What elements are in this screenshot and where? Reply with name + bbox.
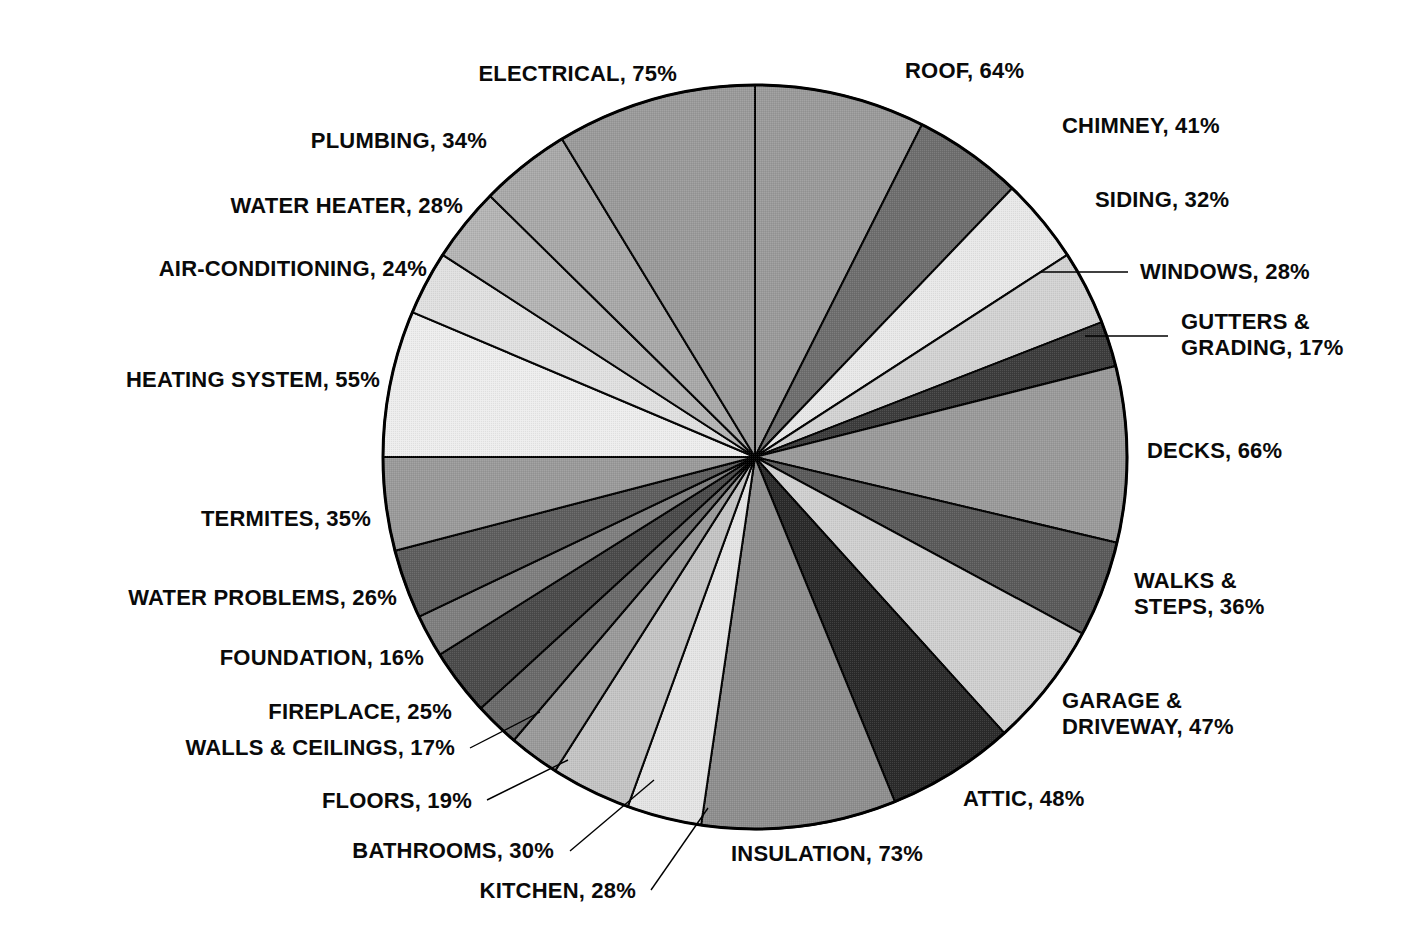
floors-leader [487,760,568,800]
pie-label-kitchen: KITCHEN, 28% [0,878,636,904]
pie-label-electrical: ELECTRICAL, 75% [0,61,677,87]
pie-label-gutters-grading: GUTTERS &GRADING, 17% [1181,309,1344,360]
pie-label-garage-driveway: GARAGE &DRIVEWAY, 47% [1062,688,1234,739]
pie-label-line: INSULATION, 73% [731,841,923,867]
pie-label-plumbing: PLUMBING, 34% [0,128,487,154]
pie-label-chimney: CHIMNEY, 41% [1062,113,1220,139]
pie-label-heating-system: HEATING SYSTEM, 55% [0,367,380,393]
pie-label-walks-steps: WALKS &STEPS, 36% [1134,568,1264,619]
pie-label-line: SIDING, 32% [1095,187,1229,213]
pie-label-line: STEPS, 36% [1134,594,1264,620]
pie-label-air-conditioning: AIR-CONDITIONING, 24% [0,256,427,282]
pie-label-bathrooms: BATHROOMS, 30% [0,838,554,864]
pie-label-line: GARAGE & [1062,688,1234,714]
pie-label-line: AIR-CONDITIONING, 24% [0,256,427,282]
pie-label-line: WATER PROBLEMS, 26% [0,585,397,611]
pie-label-line: BATHROOMS, 30% [0,838,554,864]
pie-label-attic: ATTIC, 48% [963,786,1084,812]
pie-label-line: DRIVEWAY, 47% [1062,714,1234,740]
pie-label-siding: SIDING, 32% [1095,187,1229,213]
pie-label-line: WINDOWS, 28% [1140,259,1310,285]
pie-label-line: ATTIC, 48% [963,786,1084,812]
pie-label-walls-ceilings: WALLS & CEILINGS, 17% [0,735,455,761]
pie-label-line: ELECTRICAL, 75% [0,61,677,87]
pie-label-line: TERMITES, 35% [0,506,371,532]
pie-label-line: WALLS & CEILINGS, 17% [0,735,455,761]
pie-label-water-heater: WATER HEATER, 28% [0,193,463,219]
pie-label-decks: DECKS, 66% [1147,438,1282,464]
pie-label-line: WALKS & [1134,568,1264,594]
pie-label-line: FOUNDATION, 16% [0,645,424,671]
pie-label-termites: TERMITES, 35% [0,506,371,532]
pie-chart-figure: ROOF, 64%CHIMNEY, 41%SIDING, 32%WINDOWS,… [0,0,1426,952]
pie-label-line: PLUMBING, 34% [0,128,487,154]
pie-label-line: KITCHEN, 28% [0,878,636,904]
pie-label-line: ROOF, 64% [905,58,1024,84]
pie-label-line: HEATING SYSTEM, 55% [0,367,380,393]
pie-label-line: FIREPLACE, 25% [0,699,452,725]
pie-label-line: GUTTERS & [1181,309,1344,335]
pie-label-fireplace: FIREPLACE, 25% [0,699,452,725]
pie-label-water-problems: WATER PROBLEMS, 26% [0,585,397,611]
pie-label-roof: ROOF, 64% [905,58,1024,84]
pie-label-line: GRADING, 17% [1181,335,1344,361]
pie-label-line: CHIMNEY, 41% [1062,113,1220,139]
pie-label-line: DECKS, 66% [1147,438,1282,464]
pie-texture-overlay [383,85,1127,829]
pie-label-insulation: INSULATION, 73% [731,841,923,867]
pie-label-foundation: FOUNDATION, 16% [0,645,424,671]
pie-label-windows: WINDOWS, 28% [1140,259,1310,285]
pie-label-floors: FLOORS, 19% [0,788,472,814]
pie-label-line: FLOORS, 19% [0,788,472,814]
pie-label-line: WATER HEATER, 28% [0,193,463,219]
